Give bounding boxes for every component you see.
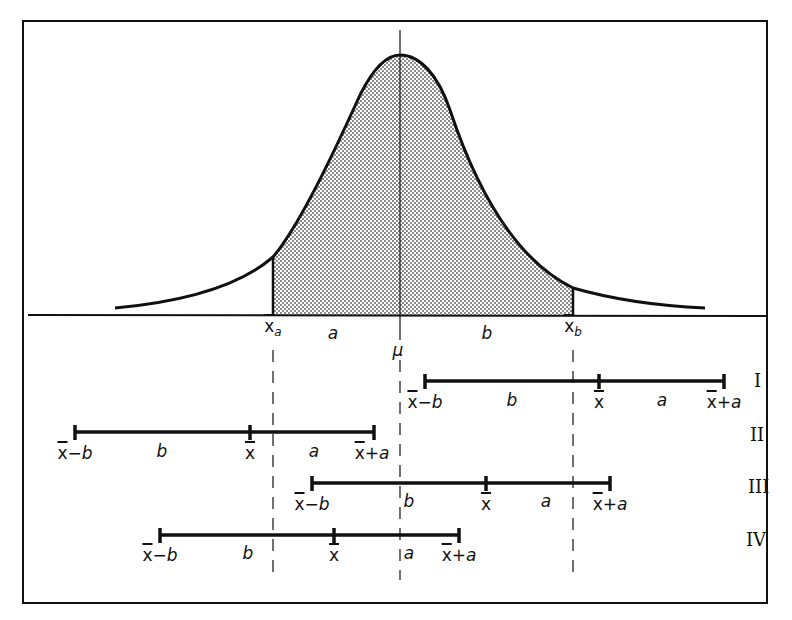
interval-IV-upper-label: x+a xyxy=(442,547,477,564)
interval-II-center-label: x xyxy=(245,445,255,462)
interval-III-b-label: b xyxy=(404,493,415,510)
interval-I xyxy=(425,374,724,389)
interval-III-upper-label: x+a xyxy=(593,496,628,513)
label-segment-b: b xyxy=(482,325,493,342)
interval-I-center-label: x xyxy=(594,394,604,411)
label-segment-a: a xyxy=(328,325,338,342)
interval-II-lower-label: x−b xyxy=(57,445,92,462)
interval-IV xyxy=(160,528,459,543)
interval-IV-b-label: b xyxy=(243,545,254,562)
row-label-II: II xyxy=(750,426,764,444)
interval-III-lower-label: x−b xyxy=(294,496,329,513)
row-label-IV: IV xyxy=(746,531,766,549)
label-mu: μ xyxy=(393,342,404,359)
label-xb: xb xyxy=(564,318,582,338)
interval-I-b-label: b xyxy=(507,392,518,409)
interval-III-center-label: x xyxy=(481,496,491,513)
interval-I-lower-label: x−b xyxy=(407,394,442,411)
interval-III-a-label: a xyxy=(541,493,551,510)
interval-II-b-label: b xyxy=(157,443,168,460)
x-axis xyxy=(28,315,767,316)
interval-II-a-label: a xyxy=(309,443,319,460)
interval-IV-a-label: a xyxy=(404,545,414,562)
interval-I-a-label: a xyxy=(657,392,667,409)
row-label-I: I xyxy=(754,372,761,390)
interval-IV-center-label: x xyxy=(329,547,339,564)
interval-II-upper-label: x+a xyxy=(355,445,390,462)
interval-I-upper-label: x+a xyxy=(707,394,742,411)
interval-III xyxy=(312,476,610,491)
interval-IV-lower-label: x−b xyxy=(142,547,177,564)
label-xa: xa xyxy=(264,318,281,338)
row-label-III: III xyxy=(748,478,769,496)
interval-II xyxy=(75,425,374,440)
figure-canvas xyxy=(0,0,792,620)
